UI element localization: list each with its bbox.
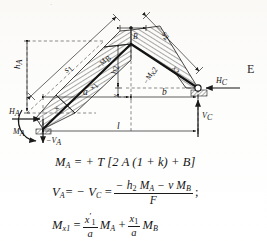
figure-page: B hA h2 v a b l s1 s2 [0,0,267,241]
equation-m-x1-frac2-num: x1 [128,213,141,226]
moment-area-apex-left [104,30,131,47]
reaction-label-vc: VC [202,112,212,122]
reaction-label-va: −VA [46,137,61,147]
equation-v-a-denominator: F [114,193,193,206]
dimension-label-a: a [83,88,88,98]
reaction-label-hc: HC [216,77,227,87]
equation-m-a: MA = + T [2 A (1 + k) + B] [55,155,196,170]
equation-m-x1-equals: = [74,218,81,232]
equation-v-a-mid: = − V [65,185,96,199]
equation-m-a-lhs: M [55,155,66,169]
dimension-label-v: v [112,94,119,97]
equation-m-a-rhs: = + T [2 A (1 + k) + B] [74,155,196,169]
equation-m-x1-lhs-sub: x1 [63,224,71,233]
equation-m-x1-fraction-1: x′1 a [83,212,98,239]
equation-m-x1-frac2-den: a [128,226,141,238]
frame-diagram-svg [0,0,267,152]
reaction-label-ha: HA [9,108,20,118]
equation-v-a-fraction: − h2 MA − v MB F [114,179,193,206]
top-cropped-fragment: · [50,1,52,9]
equation-m-x1-lhs: M [52,218,63,232]
structural-figure: B hA h2 v a b l s1 s2 [0,0,267,152]
equation-m-x1-plus: + [118,218,125,232]
dimension-label-b: b [162,88,167,98]
equation-m-a-lhs-sub: A [66,161,71,170]
equation-m-x1-term2-sub: B [153,224,158,233]
equation-v-a-lhs: V [52,185,60,199]
equation-m-x1-frac1-den: a [83,227,98,239]
dimension-label-l: l [117,122,120,132]
dimension-label-h-a: hA [13,60,24,69]
margin-letter: E [247,62,254,77]
equation-v-a-numerator: − h2 MA − v MB [114,179,193,193]
equation-v-a-terminator: ; [195,185,199,199]
moment-sign-positive: + [54,104,60,114]
equation-m-x1-frac1-num: x′1 [83,212,98,227]
equation-m-x1-term1-sub: A [110,224,115,233]
equation-v-a-mid-sub: C [96,191,101,200]
node-label-b: B [133,33,138,41]
equation-m-x1-term1: M [100,218,111,232]
formula-block: MA = + T [2 A (1 + k) + B] VA= − VC = − … [0,150,267,241]
equation-m-x1-fraction-2: x1 a [128,213,141,238]
equation-v-a-equals: = [105,185,112,199]
equation-v-a: VA= − VC = − h2 MA − v MB F ; [52,179,199,206]
equation-m-x1: Mx1 = x′1 a MA + x1 a MB [52,212,158,239]
equation-m-x1-term2: M [142,218,153,232]
reaction-label-ma: MA [13,128,25,138]
dimension-label-h-2: h2 [110,66,121,74]
